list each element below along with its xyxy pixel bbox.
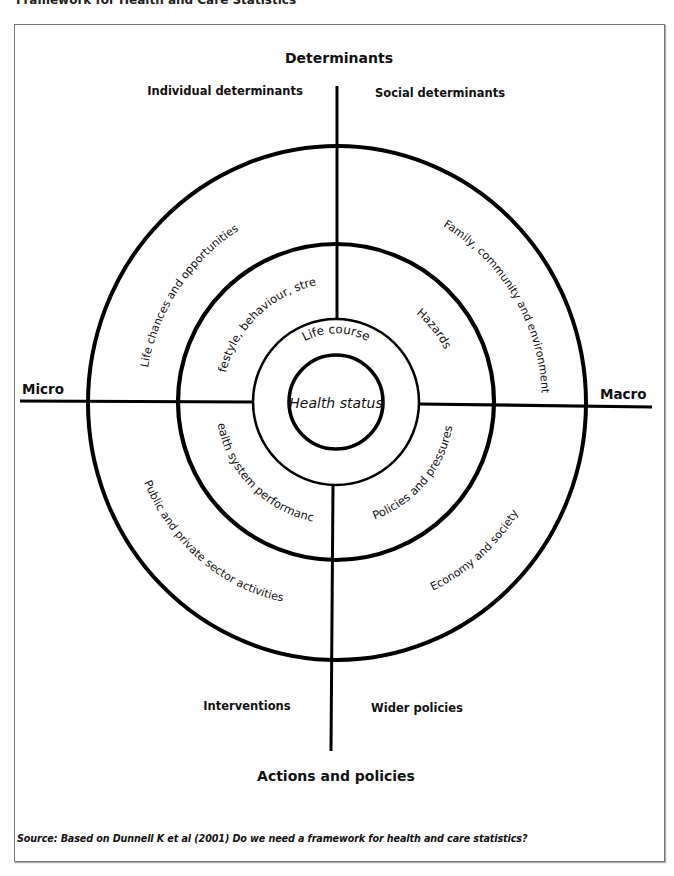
svg-text:Health system performance: Health system performance xyxy=(0,0,315,525)
horizontal-axis-left xyxy=(20,401,254,402)
svg-text:Family, community and environm: Family, community and environment xyxy=(441,218,552,395)
label-life-course: Life course xyxy=(300,322,373,344)
label-interventions: Interventions xyxy=(203,699,290,713)
heading-actions-and-policies: Actions and policies xyxy=(257,768,415,784)
heading-determinants: Determinants xyxy=(285,50,393,66)
label-individual-determinants: Individual determinants xyxy=(147,84,303,98)
label-policies-and-pressures: Policies and pressures xyxy=(370,424,455,522)
label-health-status: Health status xyxy=(289,395,382,411)
health-framework-diagram: Determinants Actions and policies Micro … xyxy=(0,0,674,876)
axis-label-macro: Macro xyxy=(600,386,646,402)
label-social-determinants: Social determinants xyxy=(375,86,505,100)
svg-text:Hazards: Hazards xyxy=(414,305,455,351)
axis-lines xyxy=(20,86,652,751)
svg-text:Life course: Life course xyxy=(300,322,373,344)
horizontal-axis-right xyxy=(418,404,652,407)
svg-text:Policies and pressures: Policies and pressures xyxy=(370,424,455,522)
axis-label-micro: Micro xyxy=(22,381,64,397)
label-hazards: Hazards xyxy=(414,305,455,351)
source-citation: Source: Based on Dunnell K et al (2001) … xyxy=(17,833,527,844)
label-family-community-environment: Family, community and environment xyxy=(441,218,552,395)
vertical-axis-bottom xyxy=(331,486,333,751)
label-wider-policies: Wider policies xyxy=(371,701,463,715)
label-health-system-performance: Health system performance xyxy=(0,0,315,525)
